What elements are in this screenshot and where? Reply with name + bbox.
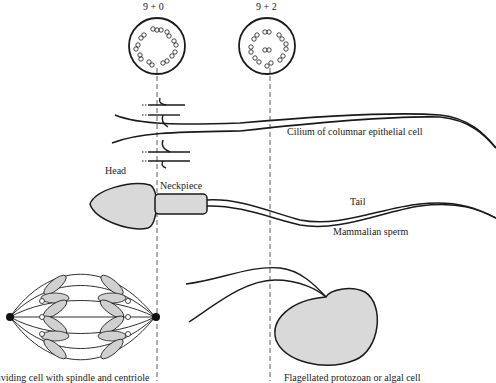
label-dividing-cell: ividing cell with spindle and centriole — [0, 372, 149, 383]
label-neckpiece: Neckpiece — [160, 180, 202, 191]
label-tail: Tail — [350, 196, 365, 207]
centriole-right — [152, 313, 160, 321]
label-sperm: Mammalian sperm — [333, 226, 408, 237]
label-cilium: Cilium of columnar epithelial cell — [287, 126, 423, 137]
sperm — [90, 184, 496, 229]
label-9-2: 9 + 2 — [256, 1, 277, 12]
flagellated-cell — [186, 268, 377, 366]
cross-section-9-0 — [129, 18, 185, 74]
dividing-cell-spindle — [6, 272, 160, 362]
centriole-left — [6, 313, 14, 321]
label-flagellated: Flagellated protozoan or algal cell — [284, 372, 421, 383]
label-head: Head — [105, 165, 126, 176]
cross-section-9-2 — [239, 18, 295, 74]
label-9-0: 9 + 0 — [143, 1, 164, 12]
